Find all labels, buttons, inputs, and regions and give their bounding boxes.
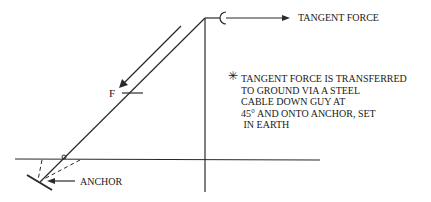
note-line: IN EARTH [241, 119, 407, 131]
anchor-label: ANCHOR [80, 176, 122, 188]
dashed-line [42, 160, 80, 180]
clamp-icon [220, 12, 226, 24]
force-arrow [124, 26, 181, 83]
note-line: 45° AND ONTO ANCHOR, SET [241, 108, 407, 120]
arrowhead-icon [282, 15, 290, 21]
note-line: TANGENT FORCE IS TRANSFERRED [241, 73, 407, 85]
asterisk-icon: ✳ [228, 71, 238, 83]
dashed-line [38, 160, 42, 180]
note-line: TO GROUND VIA A STEEL [241, 85, 407, 97]
note-line: CABLE DOWN GUY AT [241, 96, 407, 108]
ground-line [15, 159, 320, 160]
note-text: TANGENT FORCE IS TRANSFERRED TO GROUND V… [241, 73, 407, 131]
force-label: F [109, 88, 115, 100]
tangent-force-label: TANGENT FORCE [298, 12, 379, 24]
anchor-arrowhead-icon [47, 178, 55, 184]
guy-cable [40, 18, 205, 182]
